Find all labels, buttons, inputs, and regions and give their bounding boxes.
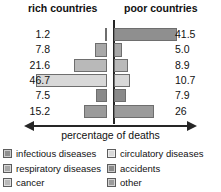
value-label-poor: 7.9 <box>175 89 219 102</box>
bar-poor-infectious-diseases <box>114 28 177 41</box>
value-label-poor: 10.7 <box>175 74 219 87</box>
bar-rich-cancer <box>74 59 107 72</box>
legend-swatch-icon <box>107 164 116 173</box>
bar-poor-accidents <box>114 89 126 102</box>
legend-item-circulatory-diseases: circulatory diseases <box>107 147 203 160</box>
chart-row: 46.710.7 <box>0 73 221 88</box>
value-label-rich: 1.2 <box>4 28 50 41</box>
column-title-rich-countries: rich countries <box>28 2 97 14</box>
legend-swatch-icon <box>3 149 12 158</box>
chart-row: 1.241.5 <box>0 27 221 42</box>
plot-area: 1.241.57.85.021.68.946.710.77.57.915.226 <box>0 27 221 119</box>
value-label-rich: 7.5 <box>4 89 50 102</box>
tornado-chart: rich countries poor countries 1.241.57.8… <box>0 0 221 192</box>
legend: infectious diseasesrespiratory diseasesc… <box>3 147 218 191</box>
bar-rich-other <box>84 105 107 118</box>
chart-row: 21.68.9 <box>0 58 221 73</box>
value-label-poor: 26 <box>175 105 219 118</box>
legend-swatch-icon <box>107 149 116 158</box>
legend-item-cancer: cancer <box>3 176 45 189</box>
bar-rich-infectious-diseases <box>105 28 107 41</box>
bar-poor-circulatory-diseases <box>114 74 130 87</box>
value-label-rich: 46.7 <box>4 74 50 87</box>
legend-item-respiratory-diseases: respiratory diseases <box>3 162 101 175</box>
legend-swatch-icon <box>3 178 12 187</box>
axis-label: percentage of deaths <box>0 129 221 141</box>
legend-item-accidents: accidents <box>107 162 160 175</box>
value-label-poor: 5.0 <box>175 43 219 56</box>
column-title-poor-countries: poor countries <box>124 2 198 14</box>
bar-rich-respiratory-diseases <box>95 43 107 56</box>
legend-swatch-icon <box>107 178 116 187</box>
bar-rich-accidents <box>96 89 107 102</box>
value-label-rich: 7.8 <box>4 43 50 56</box>
chart-row: 15.226 <box>0 104 221 119</box>
legend-label: circulatory diseases <box>120 148 203 159</box>
value-label-poor: 41.5 <box>175 28 219 41</box>
legend-item-infectious-diseases: infectious diseases <box>3 147 96 160</box>
legend-label: accidents <box>120 163 160 174</box>
legend-label: infectious diseases <box>16 148 96 159</box>
bar-poor-other <box>114 105 154 118</box>
value-label-rich: 21.6 <box>4 59 50 72</box>
axis-line-horizontal <box>33 125 188 127</box>
legend-label: other <box>120 177 142 188</box>
chart-row: 7.85.0 <box>0 42 221 57</box>
value-label-poor: 8.9 <box>175 59 219 72</box>
legend-item-other: other <box>107 176 142 189</box>
legend-label: cancer <box>16 177 45 188</box>
bar-poor-cancer <box>114 59 128 72</box>
bar-poor-respiratory-diseases <box>114 43 122 56</box>
chart-row: 7.57.9 <box>0 88 221 103</box>
legend-label: respiratory diseases <box>16 163 101 174</box>
legend-swatch-icon <box>3 164 12 173</box>
value-label-rich: 15.2 <box>4 105 50 118</box>
